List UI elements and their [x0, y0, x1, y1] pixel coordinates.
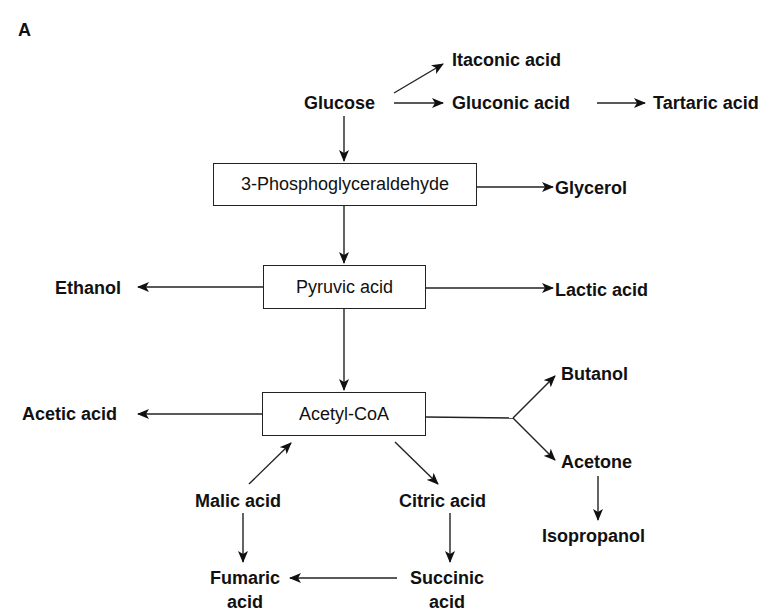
node-glycerol: Glycerol	[555, 178, 627, 198]
succinic-line-1: Succinic	[402, 568, 492, 588]
node-malic-acid: Malic acid	[195, 491, 281, 511]
arrow-branch-butanol	[513, 376, 555, 418]
line-acetylcoa-branch	[426, 417, 513, 418]
fumaric-line-2: acid	[200, 592, 290, 612]
node-succinic-acid: Succinic acid	[402, 568, 492, 612]
fumaric-line-1: Fumaric	[200, 568, 290, 588]
succinic-line-2: acid	[402, 592, 492, 612]
node-gluconic-acid: Gluconic acid	[452, 93, 570, 113]
node-acetone: Acetone	[561, 452, 632, 472]
node-acetyl-coa: Acetyl-CoA	[262, 392, 426, 436]
node-isopropanol: Isopropanol	[542, 526, 645, 546]
arrow-malic-acetylcoa	[249, 443, 291, 484]
node-fumaric-acid: Fumaric acid	[200, 568, 290, 612]
node-glucose: Glucose	[304, 93, 375, 113]
node-ethanol: Ethanol	[55, 278, 121, 298]
node-phosphoglyceraldehyde: 3-Phosphoglyceraldehyde	[213, 163, 477, 206]
node-pyruvic-acid: Pyruvic acid	[263, 265, 426, 309]
arrow-glucose-itaconic	[394, 64, 443, 93]
node-tartaric-acid: Tartaric acid	[653, 93, 759, 113]
node-lactic-acid: Lactic acid	[555, 280, 648, 300]
node-citric-acid: Citric acid	[399, 491, 486, 511]
arrow-acetylcoa-citric	[395, 442, 438, 484]
node-acetic-acid: Acetic acid	[22, 404, 117, 424]
node-itaconic-acid: Itaconic acid	[452, 50, 561, 70]
node-butanol: Butanol	[561, 364, 628, 384]
arrow-branch-acetone	[513, 418, 555, 460]
